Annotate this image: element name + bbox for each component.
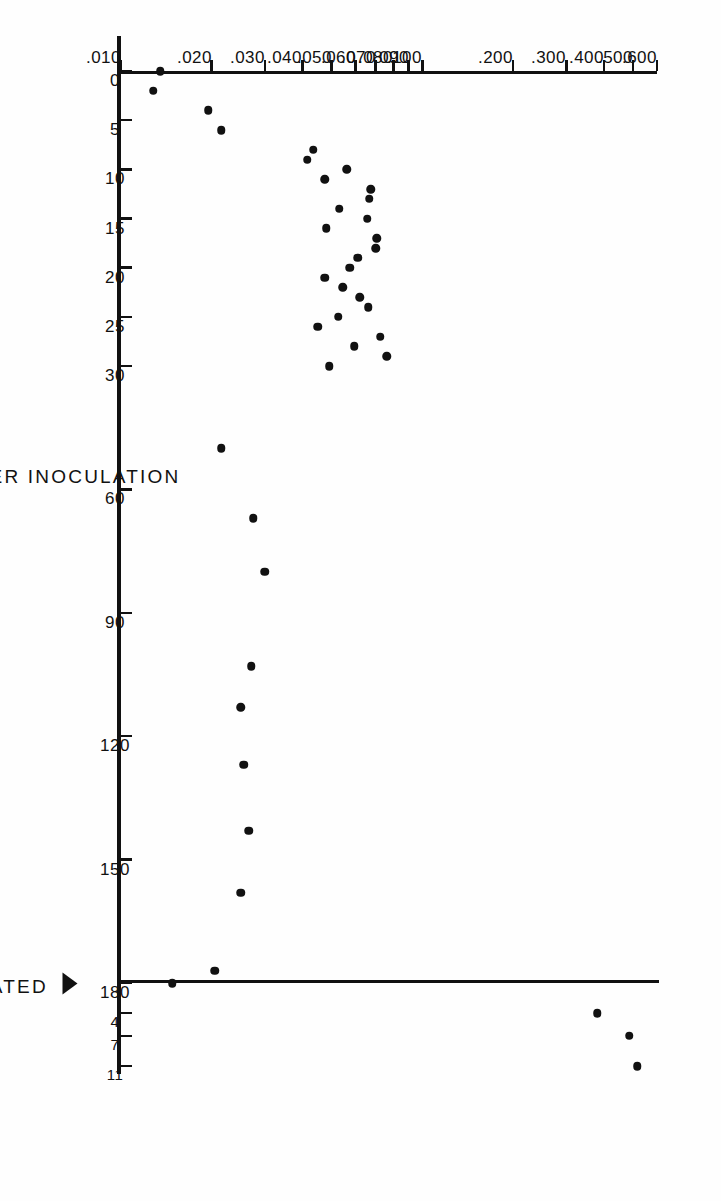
x-tick-label: 5 bbox=[110, 120, 120, 140]
reinoculated-label: REINOCULATED bbox=[0, 976, 47, 998]
x-tick-label-post-reinoculation: 11 bbox=[106, 1066, 123, 1083]
data-point bbox=[309, 145, 318, 154]
x-tick-label-post-reinoculation: 7 bbox=[110, 1035, 119, 1052]
x-tick-label: 0 bbox=[110, 71, 120, 91]
data-point bbox=[382, 351, 391, 360]
x-tick-post-reinoculation bbox=[121, 1011, 132, 1014]
data-point bbox=[362, 214, 371, 223]
data-point bbox=[149, 86, 158, 95]
data-point bbox=[335, 204, 344, 213]
data-point bbox=[216, 444, 225, 453]
data-point bbox=[320, 273, 329, 282]
data-point bbox=[338, 283, 347, 292]
data-point bbox=[322, 224, 331, 233]
x-tick-label: 120 bbox=[100, 736, 130, 756]
data-point bbox=[236, 888, 245, 897]
data-point bbox=[236, 703, 245, 712]
data-point bbox=[216, 125, 225, 134]
y-tick-label: .010 bbox=[85, 48, 120, 68]
data-point bbox=[320, 174, 329, 183]
data-point bbox=[324, 361, 333, 370]
x-tick-label: 180 bbox=[100, 983, 130, 1003]
data-point bbox=[156, 66, 165, 75]
data-point bbox=[376, 332, 385, 341]
x-axis-title: DAYS AFTER INOCULATION bbox=[0, 466, 180, 488]
data-point bbox=[303, 155, 312, 164]
data-point bbox=[333, 312, 342, 321]
x-axis-line bbox=[117, 36, 121, 1074]
figure-page: 05101520253060901201501804711 .010.020.0… bbox=[0, 0, 721, 1201]
data-point bbox=[624, 1031, 633, 1040]
data-point bbox=[210, 966, 219, 975]
data-point bbox=[355, 292, 364, 301]
data-point bbox=[350, 342, 359, 351]
x-tick-label-post-reinoculation: 4 bbox=[110, 1013, 119, 1030]
x-tick-label: 25 bbox=[105, 316, 125, 336]
data-point bbox=[363, 302, 372, 311]
data-point bbox=[353, 253, 362, 262]
x-tick-post-reinoculation bbox=[121, 1034, 132, 1037]
data-point bbox=[204, 106, 213, 115]
y-axis-line bbox=[118, 71, 657, 74]
data-point bbox=[632, 1061, 641, 1070]
data-point bbox=[313, 322, 322, 331]
x-tick-label: 20 bbox=[105, 267, 125, 287]
data-point bbox=[244, 826, 253, 835]
x-tick-label: 30 bbox=[105, 366, 125, 386]
y-tick-label: .200 bbox=[478, 48, 513, 68]
data-point bbox=[342, 165, 351, 174]
data-point bbox=[371, 243, 380, 252]
data-point bbox=[246, 662, 255, 671]
x-tick-label: 90 bbox=[105, 612, 125, 632]
left-arrow-icon bbox=[62, 972, 77, 994]
y-tick-label: .030 bbox=[229, 48, 264, 68]
rotated-figure-wrapper: 05101520253060901201501804711 .010.020.0… bbox=[0, 0, 721, 1201]
data-point bbox=[364, 194, 373, 203]
data-point bbox=[345, 263, 354, 272]
data-point bbox=[249, 513, 258, 522]
x-tick-label: 150 bbox=[100, 859, 130, 879]
y-tick-label: .020 bbox=[176, 48, 211, 68]
data-point bbox=[592, 1008, 601, 1017]
y-tick-label: .300 bbox=[531, 48, 566, 68]
data-point bbox=[239, 760, 248, 769]
x-tick-label: 60 bbox=[105, 489, 125, 509]
x-tick bbox=[121, 118, 132, 121]
scatter-chart: 05101520253060901201501804711 .010.020.0… bbox=[41, 36, 681, 1166]
y-tick-label: .100 bbox=[387, 48, 422, 68]
data-point bbox=[372, 233, 381, 242]
y-tick-label: .600 bbox=[621, 48, 656, 68]
reinoculation-line bbox=[121, 979, 659, 982]
data-point bbox=[366, 184, 375, 193]
x-tick-label: 10 bbox=[105, 169, 125, 189]
data-point bbox=[260, 567, 269, 576]
x-tick-label: 15 bbox=[105, 218, 125, 238]
